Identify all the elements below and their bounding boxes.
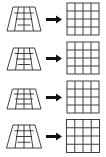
perspective-trapezoid-grid bbox=[0, 39, 44, 78]
figure-row bbox=[0, 78, 106, 117]
square-grid-svg bbox=[64, 78, 106, 117]
square-grid-svg bbox=[64, 39, 106, 78]
arrow-right-icon bbox=[44, 39, 64, 78]
square-grid bbox=[64, 78, 106, 117]
trapezoid-grid-svg bbox=[0, 117, 44, 156]
perspective-trapezoid-grid bbox=[0, 0, 44, 39]
arrow-svg bbox=[44, 117, 64, 156]
trapezoid-grid-svg bbox=[0, 78, 44, 117]
figure-row bbox=[0, 0, 106, 39]
arrow-svg bbox=[44, 0, 64, 39]
arrow-svg bbox=[44, 39, 64, 78]
trapezoid-grid-svg bbox=[0, 39, 44, 78]
trapezoid-grid-svg bbox=[0, 0, 44, 39]
square-grid-svg bbox=[64, 0, 106, 39]
arrow-right-icon bbox=[44, 78, 64, 117]
square-grid bbox=[64, 0, 106, 39]
square-grid bbox=[64, 39, 106, 78]
arrow-svg bbox=[44, 78, 64, 117]
rectification-figure bbox=[0, 0, 106, 157]
perspective-trapezoid-grid bbox=[0, 117, 44, 156]
arrow-right-icon bbox=[44, 0, 64, 39]
figure-row bbox=[0, 39, 106, 78]
arrow-right-icon bbox=[44, 117, 64, 156]
figure-row bbox=[0, 117, 106, 156]
square-grid bbox=[64, 117, 106, 156]
perspective-trapezoid-grid bbox=[0, 78, 44, 117]
square-grid-svg bbox=[64, 117, 106, 156]
